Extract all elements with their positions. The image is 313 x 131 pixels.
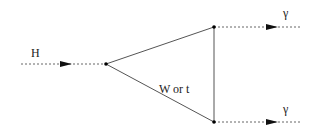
- arrow-icon: [60, 61, 72, 67]
- higgs-line: [21, 61, 106, 67]
- label-photon-bottom: γ: [282, 102, 289, 116]
- feynman-diagram: H W or t γ γ: [0, 0, 313, 131]
- photon-line-top: [214, 24, 300, 30]
- vertex-bottom: [212, 120, 216, 124]
- diagram-svg: H W or t γ γ: [0, 0, 313, 131]
- vertex-top: [212, 25, 216, 29]
- arrow-icon: [266, 119, 278, 125]
- label-photon-top: γ: [282, 6, 289, 20]
- vertex-left: [104, 62, 108, 66]
- label-loop: W or t: [159, 82, 190, 96]
- photon-line-bottom: [214, 119, 300, 125]
- arrow-icon: [266, 24, 278, 30]
- label-higgs: H: [31, 46, 40, 60]
- loop-triangle: [106, 27, 214, 122]
